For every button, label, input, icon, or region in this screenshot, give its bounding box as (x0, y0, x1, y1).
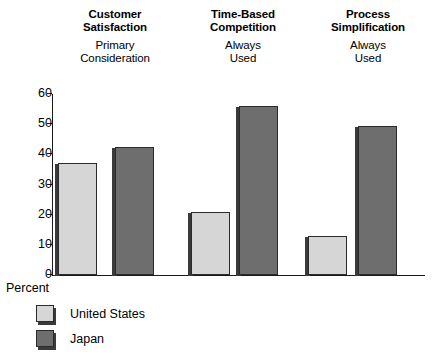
y-tick-label-0: 0 (24, 268, 52, 280)
y-tick-label-50: 50 (24, 117, 52, 129)
group-title-line1: Customer (89, 8, 142, 20)
y-tick-label-20: 20 (24, 208, 52, 220)
legend-swatch-united-states (36, 305, 58, 325)
group-title: Customer Satisfaction (52, 8, 178, 34)
group-title: Process Simplification (305, 8, 431, 34)
y-axis-label: Percent (6, 281, 49, 295)
group-subtitle-line1: Primary (96, 39, 135, 51)
bar-united-states-time-based-competition (191, 212, 230, 275)
group-title-line1: Time-Based (211, 8, 275, 20)
group-subtitle-line1: Always (350, 39, 386, 51)
group-title: Time-Based Competition (180, 8, 306, 34)
legend-label: Japan (70, 332, 104, 346)
y-tick-label-40: 40 (24, 147, 52, 159)
legend-swatch-fill (36, 305, 54, 322)
y-tick-label-30: 30 (24, 178, 52, 190)
group-heading-time-based-competition: Time-Based Competition Always Used (180, 8, 306, 65)
group-subtitle: Always Used (305, 39, 431, 65)
group-subtitle: Always Used (180, 39, 306, 65)
group-subtitle-line1: Always (225, 39, 261, 51)
group-title-line2: Competition (180, 21, 306, 34)
group-heading-process-simplification: Process Simplification Always Used (305, 8, 431, 65)
y-axis-line (52, 94, 53, 276)
bar-united-states-process-simplification (308, 236, 347, 275)
group-title-line1: Process (346, 8, 390, 20)
group-title-line2: Satisfaction (52, 21, 178, 34)
bar-japan-time-based-competition (239, 106, 278, 275)
legend-label: United States (70, 307, 145, 321)
bar-japan-process-simplification (358, 126, 397, 275)
legend-swatch-fill (36, 330, 54, 347)
group-heading-customer-satisfaction: Customer Satisfaction Primary Considerat… (52, 8, 178, 65)
group-subtitle-line2: Used (180, 52, 306, 65)
group-title-line2: Simplification (305, 21, 431, 34)
legend-swatch-japan (36, 330, 58, 350)
group-subtitle-line2: Used (305, 52, 431, 65)
y-tick-label-10: 10 (24, 238, 52, 250)
group-subtitle: Primary Consideration (52, 39, 178, 65)
bar-chart: Customer Satisfaction Primary Considerat… (0, 0, 441, 359)
group-subtitle-line2: Consideration (52, 52, 178, 65)
bar-united-states-customer-satisfaction (58, 163, 97, 275)
bar-japan-customer-satisfaction (115, 147, 154, 275)
y-tick-label-60: 60 (24, 87, 52, 99)
